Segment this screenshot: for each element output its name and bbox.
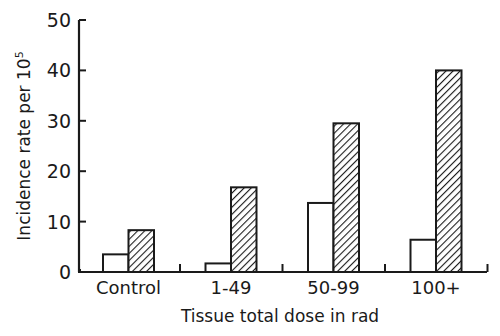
- y-tick-label: 20: [47, 160, 71, 182]
- y-axis-title: Incidence rate per 105: [13, 51, 34, 240]
- y-axis-title-superscript: 5: [13, 51, 26, 58]
- bar-open-5099: [308, 203, 334, 272]
- bar-open-149: [206, 263, 232, 272]
- y-ticks: 01020304050: [47, 9, 86, 283]
- svg-text:Incidence rate per 105: Incidence rate per 105: [13, 51, 34, 240]
- y-axis: 01020304050: [47, 9, 86, 283]
- category-label: 50-99: [307, 277, 359, 298]
- y-axis-title-text: Incidence rate per 10: [14, 58, 34, 240]
- bar-hatched-5099: [334, 123, 360, 272]
- x-axis-title: Tissue total dose in rad: [180, 306, 379, 326]
- bar-chart: 01020304050 Control1-4950-99100+ Tissue …: [0, 0, 500, 336]
- bar-hatched-control: [129, 230, 155, 272]
- y-tick-label: 0: [59, 261, 71, 283]
- category-label: 100+: [411, 277, 460, 298]
- bar-open-control: [103, 254, 129, 272]
- bar-hatched-100: [436, 70, 462, 272]
- y-tick-label: 50: [47, 9, 71, 31]
- category-label: 1-49: [211, 277, 252, 298]
- category-labels: Control1-4950-99100+: [96, 277, 461, 298]
- y-tick-label: 10: [47, 211, 71, 233]
- y-tick-label: 30: [47, 110, 71, 132]
- y-tick-label: 40: [47, 59, 71, 81]
- bars: [103, 70, 462, 272]
- category-label: Control: [96, 277, 161, 298]
- bar-hatched-149: [231, 187, 257, 272]
- bar-open-100: [411, 240, 437, 272]
